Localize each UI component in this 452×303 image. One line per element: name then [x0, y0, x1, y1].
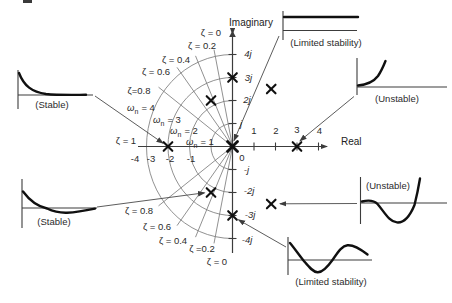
caption-stable-bottom-left: (Stable): [37, 217, 70, 227]
pole-marker-x: [267, 200, 276, 209]
imag-tick-j: j: [240, 119, 242, 129]
real-axis-label: Real: [341, 137, 362, 147]
zeta-02-upper-label: ζ = 0.2: [188, 41, 216, 51]
zeta-08-lower-label: ζ = 0.8: [125, 206, 153, 216]
real-tick-neg-3: -3: [147, 154, 155, 164]
pole-marker-x: [267, 85, 276, 94]
omega-subscript: n: [135, 108, 139, 115]
omega-n-2-label: ωn= 2: [170, 126, 198, 136]
zeta-04-lower-label: ζ = 0.4: [159, 236, 187, 246]
zeta-06-upper-label: ζ = 0.6: [142, 67, 170, 77]
omega-value: = 1: [200, 136, 213, 147]
omega-value: = 3: [167, 114, 180, 125]
zeta-06-lower-label: ζ = 0.6: [143, 222, 171, 232]
sketch-limited-stability-constant: [283, 11, 358, 40]
arrow-unstable-growth-to-pole: [300, 97, 354, 141]
omega-n-1-label: ωn= 1: [186, 137, 214, 147]
zeta-ray-0.2-lower: [214, 147, 232, 244]
imag-tick-2j: 2j: [243, 95, 250, 105]
real-tick-2: 2: [273, 126, 278, 136]
real-tick-neg-1: -1: [187, 154, 195, 164]
omega-value: = 4: [141, 102, 154, 113]
zeta-ray-0.2-upper: [214, 50, 232, 147]
sketch-unstable-exponential-growth: [357, 58, 447, 95]
real-tick-neg-4: -4: [131, 154, 139, 164]
real-tick-4: 4: [317, 126, 322, 136]
zeta-02-lower-label: ζ =0.2: [189, 244, 215, 254]
caption-limited-top: (Limited stability): [290, 38, 361, 48]
imaginary-axis-arrowhead: [229, 31, 236, 38]
caption-unstable-bottom-right: (Unstable): [366, 181, 410, 191]
imag-tick-neg-3j: -3j: [245, 210, 256, 220]
zeta-0-upper-label: ζ = 0: [201, 28, 221, 38]
real-tick-3: 3: [294, 125, 299, 135]
omega-subscript: n: [194, 142, 198, 149]
zeta-0-lower-label: ζ = 0: [207, 257, 227, 267]
caption-unstable-top-right: (Unstable): [375, 94, 419, 104]
caption-stable-top-left: (Stable): [35, 100, 68, 110]
imag-tick-neg-4j: -4j: [242, 235, 253, 245]
imag-tick-neg-j: -j: [244, 165, 249, 175]
sketch-limited-stability-sine: [288, 237, 372, 275]
omega-subscript: n: [178, 131, 182, 138]
zeta-08-upper-label: ζ=0.8: [128, 86, 151, 96]
real-tick-1: 1: [251, 126, 256, 136]
imag-tick-4j: 4j: [244, 49, 251, 59]
omega-n-4-label: ωn= 4: [127, 103, 155, 113]
imag-tick-neg-2j: -2j: [244, 186, 255, 196]
zeta-1-label: ζ = 1: [116, 136, 136, 146]
omega-value: = 2: [184, 125, 197, 136]
zeta-04-upper-label: ζ = 0.4: [162, 55, 190, 65]
caption-limited-bottom: (Limited stability): [295, 277, 366, 287]
imaginary-axis-label: Imaginary: [229, 18, 273, 28]
real-tick-neg-2: -2: [166, 154, 174, 164]
omega-subscript: n: [161, 120, 165, 127]
imag-tick-3j: 3j: [245, 73, 252, 83]
origin-tick-label: 0: [239, 153, 244, 163]
s-plane-stability-figure: Imaginary Real 0 4j 3j 2j j -j -2j -3j -…: [0, 0, 452, 303]
omega-n-3-label: ωn= 3: [153, 115, 181, 125]
